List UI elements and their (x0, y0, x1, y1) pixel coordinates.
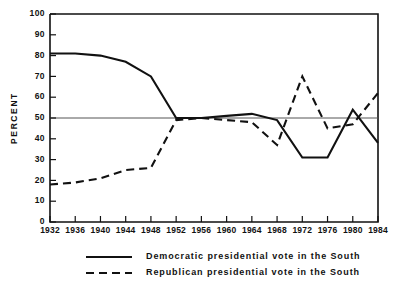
x-axis-tick-labels: 1932 1936 1940 1944 1948 1952 1956 1960 … (40, 225, 388, 235)
x-tick-label: 1968 (267, 225, 287, 235)
y-tick-label: 30 (35, 154, 45, 164)
x-tick-label: 1980 (343, 225, 363, 235)
y-tick-label: 50 (35, 112, 45, 122)
series-line-democratic (50, 54, 378, 158)
legend-label-republican: Republican presidential vote in the Sout… (146, 267, 360, 277)
y-tick-label: 20 (35, 175, 45, 185)
x-tick-label: 1952 (166, 225, 186, 235)
line-chart: 0 10 20 30 40 50 60 70 80 90 100 PERCENT (0, 0, 402, 291)
x-tick-label: 1932 (40, 225, 60, 235)
x-tick-label: 1960 (217, 225, 237, 235)
x-tick-label: 1956 (192, 225, 212, 235)
series-line-republican (50, 76, 378, 184)
x-tick-label: 1936 (65, 225, 85, 235)
x-tick-label: 1964 (242, 225, 262, 235)
y-tick-label: 70 (35, 71, 45, 81)
y-tick-label: 60 (35, 91, 45, 101)
y-tick-label: 100 (30, 8, 45, 18)
x-tick-label: 1948 (141, 225, 161, 235)
chart-legend: Democratic presidential vote in the Sout… (86, 251, 360, 277)
y-axis-title: PERCENT (9, 92, 19, 144)
legend-label-democratic: Democratic presidential vote in the Sout… (146, 251, 360, 261)
x-tick-label: 1944 (116, 225, 136, 235)
legend-item-democratic: Democratic presidential vote in the Sout… (86, 251, 360, 261)
x-tick-label: 1984 (368, 225, 388, 235)
legend-item-republican: Republican presidential vote in the Sout… (86, 267, 360, 277)
chart-figure: 0 10 20 30 40 50 60 70 80 90 100 PERCENT (0, 0, 402, 291)
x-tick-label: 1972 (292, 225, 312, 235)
x-tick-label: 1976 (318, 225, 338, 235)
x-axis-ticks (50, 216, 378, 222)
x-tick-label: 1940 (91, 225, 111, 235)
y-tick-label: 10 (35, 195, 45, 205)
y-tick-label: 80 (35, 50, 45, 60)
y-tick-label: 40 (35, 133, 45, 143)
y-axis-ticks (50, 14, 56, 222)
y-tick-label: 90 (35, 29, 45, 39)
y-axis-tick-labels: 0 10 20 30 40 50 60 70 80 90 100 (30, 8, 45, 226)
